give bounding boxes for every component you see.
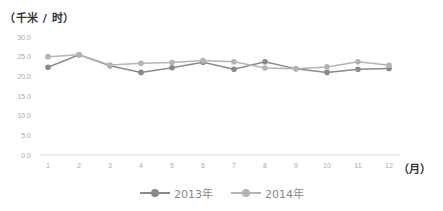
data-point[interactable] [386,63,392,69]
x-tick-label: 3 [108,162,112,169]
data-point[interactable] [45,64,51,70]
data-point[interactable] [169,65,175,71]
x-tick-label: 5 [170,162,174,169]
data-point[interactable] [76,52,82,58]
y-tick-label: 25.0 [17,53,31,60]
legend-item-2013[interactable]: 2013年 [140,185,213,201]
x-axis: 123456789101112 [46,162,393,169]
x-tick-label: 2 [77,162,81,169]
y-axis: 0.05.010.015.020.025.030.0 [17,34,31,159]
legend-label: 2014年 [265,185,304,201]
data-point[interactable] [45,54,51,60]
x-tick-label: 8 [263,162,267,169]
data-point[interactable] [262,65,268,71]
y-tick-label: 10.0 [17,112,31,119]
data-point[interactable] [138,61,144,67]
data-point[interactable] [324,70,330,76]
data-point[interactable] [355,66,361,72]
y-tick-label: 5.0 [21,132,31,139]
series-line [48,55,389,69]
x-tick-label: 9 [294,162,298,169]
x-tick-label: 4 [139,162,143,169]
x-axis-unit-label: （月） [398,160,431,176]
legend-label: 2013年 [174,185,213,201]
chart-legend: 2013年 2014年 [140,185,304,201]
legend-item-2014[interactable]: 2014年 [231,185,304,201]
data-point[interactable] [107,62,113,68]
y-tick-label: 15.0 [17,93,31,100]
line-chart-plot: 0.05.010.015.020.025.030.0 1234567891011… [0,0,443,180]
data-point[interactable] [138,70,144,76]
y-tick-label: 30.0 [17,34,31,41]
x-tick-label: 12 [385,162,393,169]
y-tick-label: 0.0 [21,152,31,159]
x-tick-label: 7 [232,162,236,169]
line-marker-icon [231,188,261,198]
data-point[interactable] [200,58,206,64]
data-point[interactable] [231,59,237,65]
x-tick-label: 1 [46,162,50,169]
data-point[interactable] [293,66,299,72]
x-tick-label: 11 [354,162,361,169]
series-2013年 [45,52,392,75]
data-point[interactable] [169,60,175,66]
y-tick-label: 20.0 [17,73,31,80]
series-line [48,55,389,73]
data-point[interactable] [231,66,237,72]
line-marker-icon [140,188,170,198]
x-tick-label: 10 [323,162,331,169]
x-tick-label: 6 [201,162,205,169]
data-point[interactable] [324,64,330,70]
data-point[interactable] [262,59,268,65]
data-point[interactable] [355,59,361,65]
chart-series [45,52,392,75]
